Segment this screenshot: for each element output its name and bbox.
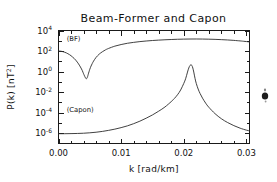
curve-bf <box>59 39 250 79</box>
beam-former-label: (BF) <box>67 35 81 43</box>
x-axis-symbol: k <box>129 164 135 174</box>
x-tick-label: 0.00 <box>49 148 68 158</box>
x-tick-label: 0.03 <box>237 148 256 158</box>
series-annotations: (BF)(Capon) <box>67 35 94 114</box>
y-axis-units-close: ] <box>6 64 16 68</box>
x-axis-title: k[rad/km] <box>129 164 179 174</box>
y-tick-label: 104 <box>37 24 52 35</box>
y-tick-label: 10-4 <box>35 106 52 117</box>
y-axis-symbol: P(k) <box>6 91 16 110</box>
x-axis-ticks <box>60 31 247 144</box>
edge-smudge <box>262 89 268 103</box>
plot-frame <box>59 31 250 144</box>
y-tick-mantissa: 10 <box>37 26 48 36</box>
y-axis-title-group: P(k)[nT2] <box>5 64 16 110</box>
y-tick-label: 100 <box>37 65 52 76</box>
chart-figure: Beam-Former and Capon 0.000.010.020.03 1… <box>0 0 277 182</box>
y-axis-units-open: [nT <box>6 72 16 88</box>
y-tick-exponent: -4 <box>46 106 52 113</box>
y-tick-mantissa: 10 <box>37 67 48 77</box>
curve-capon <box>59 65 250 134</box>
plot-title-group: Beam-Former and Capon <box>81 12 227 25</box>
y-tick-exponent: 0 <box>48 65 52 72</box>
y-axis-title: P(k)[nT2] <box>5 64 16 110</box>
y-tick-label: 102 <box>37 45 52 56</box>
y-tick-exponent: 4 <box>48 24 52 31</box>
y-tick-mantissa: 10 <box>37 46 48 56</box>
x-tick-label: 0.01 <box>112 148 131 158</box>
x-axis-title-group: k[rad/km] <box>129 164 179 174</box>
axes-frame <box>59 31 250 144</box>
y-tick-exponent: -2 <box>46 86 52 93</box>
plot-canvas: Beam-Former and Capon 0.000.010.020.03 1… <box>0 0 277 182</box>
x-axis-tick-labels: 0.000.010.020.03 <box>49 148 256 158</box>
y-tick-label: 10-6 <box>35 127 52 138</box>
y-tick-mantissa: 10 <box>35 128 46 138</box>
y-tick-mantissa: 10 <box>35 108 46 118</box>
y-tick-exponent: -6 <box>46 127 52 134</box>
y-tick-mantissa: 10 <box>35 87 46 97</box>
x-axis-units: [rad/km] <box>138 164 179 174</box>
data-curves <box>59 39 250 134</box>
y-axis-tick-labels: 10410210010-210-410-6 <box>35 24 52 138</box>
y-tick-label: 10-2 <box>35 86 52 97</box>
x-tick-label: 0.02 <box>174 148 193 158</box>
artifact-layer <box>262 89 268 103</box>
capon-label: (Capon) <box>67 106 94 114</box>
y-tick-exponent: 2 <box>48 45 52 52</box>
chart-title: Beam-Former and Capon <box>81 12 227 25</box>
